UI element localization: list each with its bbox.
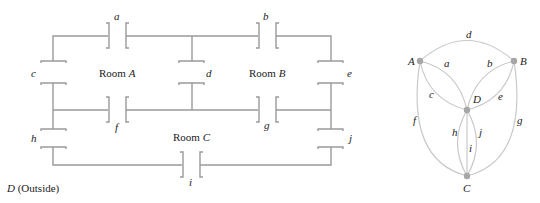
graph: A B C D a b c d e f g h i j (407, 28, 527, 194)
door-label-g: g (264, 119, 270, 131)
door-label-i: i (189, 176, 192, 188)
door-label-j: j (347, 132, 352, 144)
door-label-h: h (31, 132, 37, 144)
edge-label-g: g (517, 114, 523, 126)
vertex-label-b: B (520, 55, 527, 67)
edge-label-c: c (429, 88, 434, 100)
edge-label-e: e (498, 90, 503, 102)
vertex-label-a: A (407, 55, 415, 67)
edge-label-f: f (413, 114, 418, 126)
door-label-f: f (115, 121, 120, 133)
door-label-d: d (206, 67, 212, 79)
vertex-d (464, 107, 470, 113)
vertex-label-c: C (463, 182, 471, 194)
edge-d (420, 41, 514, 62)
vertex-label-d: D (472, 93, 481, 105)
vertex-a (417, 58, 423, 64)
edge-label-d: d (466, 28, 472, 40)
edge-label-h: h (452, 126, 458, 138)
edge-label-j: j (477, 126, 482, 138)
door-e-top (318, 61, 343, 63)
door-d-top (179, 61, 204, 63)
wall-top-left (53, 36, 108, 61)
wall-bottom-right (200, 147, 331, 165)
door-c-top (41, 61, 66, 63)
door-label-e: e (347, 67, 352, 79)
door-label-b: b (263, 10, 269, 22)
door-label-c: c (31, 67, 36, 79)
outside-label: D (Outside) (6, 182, 60, 195)
vertex-c (464, 173, 470, 179)
vertex-b (511, 58, 517, 64)
wall-top-right (276, 36, 331, 61)
floor-plan: a b c d e f g h i j Room A Room B Room C… (6, 10, 352, 195)
door-label-a: a (114, 10, 120, 22)
edge-h (458, 110, 468, 176)
edge-label-a: a (444, 57, 450, 69)
edge-label-b: b (487, 57, 493, 69)
edge-label-i: i (469, 142, 472, 154)
room-b-label: Room B (249, 67, 286, 79)
room-c-label: Room C (173, 131, 211, 143)
wall-bottom-left (53, 147, 182, 165)
door-j-top (318, 129, 343, 131)
door-h-top (41, 129, 66, 131)
room-a-label: Room A (99, 67, 136, 79)
